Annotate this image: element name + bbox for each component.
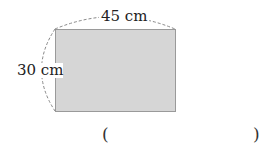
answer-blank[interactable] (112, 124, 252, 144)
height-label: 30 cm (17, 63, 63, 78)
rectangle-shape (56, 30, 176, 112)
width-label: 45 cm (99, 9, 149, 24)
answer-open-paren: ( (102, 126, 109, 143)
answer-close-paren: ) (253, 126, 260, 143)
